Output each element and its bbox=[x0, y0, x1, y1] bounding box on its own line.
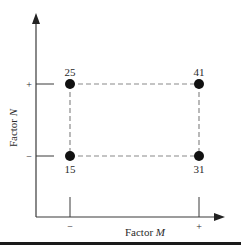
y-level-low-label: − bbox=[26, 151, 32, 162]
point-high-low bbox=[194, 151, 204, 161]
x-axis-title-var: M bbox=[155, 226, 166, 238]
y-axis bbox=[32, 13, 54, 217]
x-axis-arrow-icon bbox=[214, 213, 225, 221]
y-axis-title-prefix: Factor bbox=[7, 116, 19, 147]
value-label-high-low: 31 bbox=[194, 163, 205, 175]
x-axis-title-prefix: Factor bbox=[125, 226, 156, 238]
point-high-high bbox=[194, 79, 204, 89]
y-axis-title: Factor N bbox=[7, 108, 19, 147]
y-level-high-label: + bbox=[26, 79, 32, 90]
value-label-low-high: 25 bbox=[65, 66, 77, 78]
value-label-low-low: 15 bbox=[65, 163, 77, 175]
x-axis-title: Factor M bbox=[125, 226, 166, 238]
design-region-dashed-rect bbox=[70, 84, 199, 156]
factorial-design-diagram: 25 41 15 31 + − − + Factor M Factor N bbox=[0, 0, 241, 247]
bottom-rule bbox=[0, 242, 241, 245]
point-low-low bbox=[65, 151, 75, 161]
x-axis bbox=[36, 197, 225, 221]
x-level-low-label: − bbox=[67, 221, 73, 232]
point-low-high bbox=[65, 79, 75, 89]
x-level-high-label: + bbox=[196, 221, 202, 232]
y-axis-title-var: N bbox=[7, 108, 19, 117]
y-axis-arrow-icon bbox=[32, 13, 40, 24]
value-label-high-high: 41 bbox=[194, 66, 205, 78]
